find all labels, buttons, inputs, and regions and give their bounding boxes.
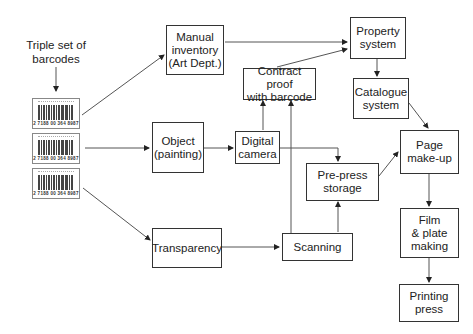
node-text: press [415, 303, 443, 316]
node-text: Catalogue [355, 86, 407, 99]
node-property-system: Property system [350, 17, 406, 59]
barcode-label-1: 2 7188 00 364 8987 [32, 98, 80, 129]
node-text: Contract proof [244, 65, 315, 91]
edge-prepress-pagemakeup [379, 152, 398, 176]
node-text: Page [416, 139, 443, 152]
node-digital-camera: Digital camera [235, 131, 280, 164]
node-text: Object [161, 135, 194, 148]
barcode-number: 2 7188 00 364 8987 [33, 191, 79, 196]
node-text: Digital [242, 135, 274, 148]
node-text: making [411, 240, 448, 253]
node-text: Transparency [152, 242, 222, 255]
node-text: inventory [172, 44, 219, 57]
node-contract-proof: Contract proof with barcode [243, 68, 316, 100]
edge-barcode3-transparency [83, 188, 150, 240]
barcode-label-3: 2 7188 00 364 8987 [32, 168, 80, 199]
node-text: with barcode [247, 91, 312, 104]
edge-camera-prepress [280, 148, 338, 161]
node-text: make-up [407, 152, 452, 165]
node-catalogue-system: Catalogue system [353, 78, 409, 119]
node-text: Film [419, 214, 441, 227]
caption-line1: Triple set of [18, 38, 94, 52]
caption-line2: barcodes [18, 52, 94, 66]
node-manual-inventory: Manual inventory (Art Dept.) [166, 25, 224, 75]
node-text: (Art Dept.) [168, 57, 221, 70]
node-text: system [363, 99, 399, 112]
node-text: (painting) [154, 148, 202, 161]
node-text: system [360, 38, 396, 51]
node-text: storage [323, 182, 361, 195]
edge-barcode1-manual-inventory [82, 55, 164, 115]
barcode-number: 2 7188 00 364 8987 [33, 121, 79, 126]
edge-catalogue-pagemakeup [409, 103, 428, 128]
node-text: Pre-press [318, 169, 368, 182]
barcode-number: 2 7188 00 364 8987 [33, 156, 79, 161]
node-text: Manual [176, 31, 214, 44]
node-text: Property [356, 25, 399, 38]
node-page-makeup: Page make-up [400, 130, 459, 174]
node-text: camera [238, 148, 276, 161]
node-scanning: Scanning [282, 233, 353, 261]
node-printing-press: Printing press [399, 284, 459, 322]
node-object-painting: Object (painting) [152, 122, 204, 173]
barcodes-caption: Triple set of barcodes [18, 38, 94, 66]
node-transparency: Transparency [152, 228, 222, 268]
node-text: & plate [412, 227, 448, 240]
barcode-label-2: 2 7188 00 364 8987 [32, 133, 80, 164]
node-text: Printing [410, 290, 449, 303]
node-prepress-storage: Pre-press storage [306, 163, 379, 201]
node-text: Scanning [294, 241, 342, 254]
node-film-plate-making: Film & plate making [400, 208, 459, 258]
